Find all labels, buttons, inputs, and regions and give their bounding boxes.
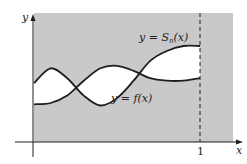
x-axis-label: x bbox=[236, 144, 243, 157]
figure: y x 1 y = Sn(x) y = f(x) bbox=[0, 0, 247, 164]
label-sn-suffix: (x) bbox=[174, 31, 189, 44]
x-tick-label-one: 1 bbox=[197, 145, 204, 158]
label-sn-prefix: y = bbox=[138, 31, 161, 44]
y-axis-label: y bbox=[21, 11, 29, 24]
label-sn: y = Sn(x) bbox=[138, 31, 188, 45]
label-f: y = f(x) bbox=[110, 92, 152, 105]
